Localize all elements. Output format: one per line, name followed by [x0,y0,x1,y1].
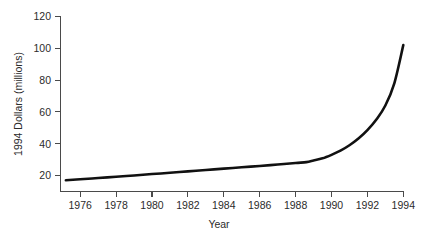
data-series-line [66,45,403,180]
chart-figure: 120 100 80 60 40 20 1976 1978 1980 1982 [0,0,428,246]
line-chart-plot: 120 100 80 60 40 20 1976 1978 1980 1982 [0,0,428,246]
x-tick-label: 1990 [320,199,344,211]
y-tick-label: 100 [33,42,51,54]
x-axis-ticks [80,192,403,198]
x-tick-label: 1994 [392,199,416,211]
y-tick-label: 40 [39,138,51,150]
x-axis-title: Year [208,218,230,230]
y-axis-ticks [55,17,61,176]
x-axis-tick-labels: 1976 1978 1980 1982 1984 1986 1988 1990 … [69,199,416,211]
y-tick-label: 60 [39,106,51,118]
x-tick-label: 1984 [212,199,236,211]
x-tick-label: 1982 [176,199,200,211]
x-tick-label: 1980 [140,199,164,211]
x-tick-label: 1976 [69,199,93,211]
y-tick-label: 80 [39,74,51,86]
x-tick-label: 1986 [248,199,272,211]
y-axis-title: 1994 Dollars (millions) [12,52,24,156]
y-axis-tick-labels: 120 100 80 60 40 20 [33,10,51,181]
y-tick-label: 20 [39,169,51,181]
y-tick-label: 120 [33,10,51,22]
x-tick-label: 1978 [104,199,128,211]
x-tick-label: 1988 [284,199,308,211]
x-tick-label: 1992 [356,199,380,211]
